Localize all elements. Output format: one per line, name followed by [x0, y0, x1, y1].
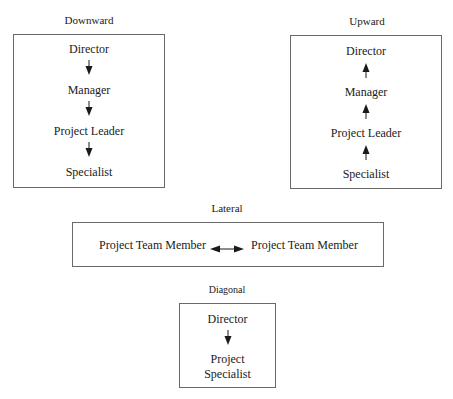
lateral-title: Lateral — [211, 202, 242, 214]
upward-node-manager: Manager — [291, 85, 441, 99]
upward-title: Upward — [349, 15, 384, 27]
lateral-box: Project Team Member Project Team Member — [72, 222, 384, 267]
downward-title: Downward — [65, 14, 114, 26]
arrow-double-horizontal-icon — [210, 240, 244, 250]
diagonal-node-director: Director — [180, 312, 275, 326]
upward-box: Director Manager Project Leader Speciali… — [290, 35, 442, 189]
lateral-node-left: Project Team Member — [99, 238, 206, 252]
arrow-down-icon — [223, 330, 233, 346]
diagonal-node-specialist: Specialist — [180, 367, 275, 381]
diagonal-title: Diagonal — [209, 284, 246, 295]
arrow-down-icon — [84, 142, 94, 158]
diagonal-box: Director Project Specialist — [179, 303, 276, 388]
downward-node-project-leader: Project Leader — [14, 124, 164, 138]
downward-node-manager: Manager — [14, 83, 164, 97]
arrow-up-icon — [361, 144, 371, 160]
lateral-node-right: Project Team Member — [251, 238, 358, 252]
arrow-down-icon — [84, 60, 94, 76]
downward-node-specialist: Specialist — [14, 165, 164, 179]
arrow-up-icon — [361, 103, 371, 119]
upward-node-specialist: Specialist — [291, 167, 441, 181]
arrow-down-icon — [84, 101, 94, 117]
upward-node-project-leader: Project Leader — [291, 126, 441, 140]
arrow-up-icon — [361, 62, 371, 78]
downward-node-director: Director — [14, 42, 164, 56]
diagonal-node-project: Project — [180, 352, 275, 366]
upward-node-director: Director — [291, 44, 441, 58]
downward-box: Director Manager Project Leader Speciali… — [13, 34, 165, 188]
